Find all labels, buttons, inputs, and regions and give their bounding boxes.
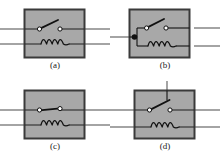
switch-terminal-right: [58, 27, 62, 31]
switch-terminal-right: [58, 107, 62, 111]
relay-configurations-figure: (a): [0, 0, 220, 162]
relay-box: [130, 10, 190, 58]
junction-dot-icon: [132, 34, 138, 40]
switch-terminal-left: [37, 27, 41, 31]
relay-box: [25, 91, 85, 139]
panel-b-caption: (b): [110, 60, 220, 70]
panel-b: (b): [110, 0, 220, 81]
switch-terminal-left: [147, 108, 151, 112]
panel-c: (c): [0, 81, 110, 162]
switch-terminal-right: [168, 108, 172, 112]
panel-a-caption: (a): [0, 60, 110, 70]
panel-a: (a): [0, 0, 110, 81]
switch-terminal-right: [164, 26, 168, 30]
panel-d-caption: (d): [110, 141, 220, 151]
panel-c-caption: (c): [0, 141, 110, 151]
panel-d: (d): [110, 81, 220, 162]
switch-terminal-left: [145, 26, 149, 30]
relay-box: [25, 10, 85, 58]
relay-box: [135, 91, 195, 139]
switch-terminal-left: [37, 108, 41, 112]
